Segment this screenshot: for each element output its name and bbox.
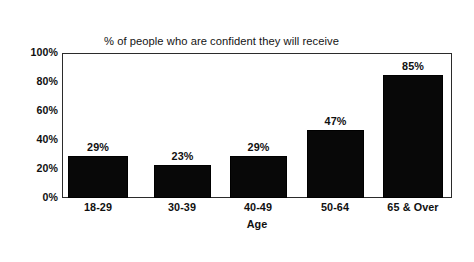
bar-group-65-over: 85%	[383, 53, 443, 198]
y-axis: 100% 80% 60% 40% 20% 0%	[0, 46, 58, 206]
bar-value-label-50-64: 47%	[325, 115, 347, 127]
bar-30-39[interactable]	[154, 165, 211, 198]
x-tick-label-65-over: 65 & Over	[387, 201, 438, 213]
x-tick-label-30-39: 30-39	[168, 201, 196, 213]
y-tick-label-80: 80%	[0, 75, 58, 88]
bars-layer: 29% 23% 29% 47% 85%	[62, 53, 452, 198]
x-tick-label-50-64: 50-64	[321, 201, 349, 213]
x-axis-title: Age	[247, 218, 268, 230]
bar-50-64[interactable]	[307, 130, 364, 198]
bar-18-29[interactable]	[68, 156, 128, 198]
x-axis: 18-29 30-39 40-49 50-64 65 & Over	[62, 201, 452, 219]
x-tick-label-18-29: 18-29	[84, 201, 112, 213]
bar-group-50-64: 47%	[307, 53, 364, 198]
y-tick-label-100: 100%	[0, 46, 58, 59]
y-tick-label-40: 40%	[0, 133, 58, 146]
bar-group-40-49: 29%	[230, 53, 287, 198]
bar-value-label-30-39: 23%	[172, 150, 194, 162]
chart-title-line-1: % of people who are confident they will …	[104, 35, 404, 48]
x-tick-label-40-49: 40-49	[244, 201, 272, 213]
bar-group-18-29: 29%	[68, 53, 128, 198]
y-tick-label-0: 0%	[0, 191, 58, 204]
bar-value-label-18-29: 29%	[87, 141, 109, 153]
bar-group-30-39: 23%	[154, 53, 211, 198]
bar-value-label-65-over: 85%	[402, 60, 424, 72]
bar-chart-figure: % of people who are confident they will …	[0, 0, 474, 262]
y-tick-label-20: 20%	[0, 162, 58, 175]
bar-value-label-40-49: 29%	[248, 141, 270, 153]
bar-40-49[interactable]	[230, 156, 287, 198]
bar-65-over[interactable]	[383, 75, 443, 198]
y-tick-label-60: 60%	[0, 104, 58, 117]
